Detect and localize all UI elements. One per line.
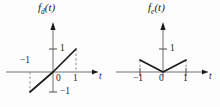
plot-odd-title-suffix: (t): [45, 1, 55, 13]
x-axis-label: t: [99, 72, 102, 82]
y-axis-arrowhead: [160, 22, 165, 30]
x-tick-label-zero: 0: [159, 74, 164, 84]
x-axis-arrowhead: [202, 69, 208, 74]
x-tick-label-pos1: 1: [73, 74, 78, 84]
x-tick-label-zero: 0: [56, 74, 61, 84]
y-tick-label-pos1: 1: [170, 44, 175, 54]
y-tick-label-pos1: 1: [60, 44, 65, 54]
plot-even-component: fe(t) −1 0 1 1 t: [110, 0, 220, 107]
plot-odd-title: fd(t): [38, 2, 55, 16]
plot-odd-canvas: [0, 0, 110, 107]
x-tick-label-pos1: 1: [183, 74, 188, 84]
signal-decomposition-figure: fd(t) −1 0 1 1 −1 t fe(t): [0, 0, 220, 107]
y-axis-arrowhead: [50, 22, 55, 30]
plot-even-title-suffix: (t): [154, 1, 164, 13]
x-axis-label: t: [209, 72, 212, 82]
plot-even-canvas: [110, 0, 220, 107]
x-axis-arrowhead: [92, 69, 98, 74]
plot-odd-component: fd(t) −1 0 1 1 −1 t: [0, 0, 110, 107]
y-tick-label-neg1: −1: [60, 87, 70, 97]
plot-even-title: fe(t): [148, 2, 165, 16]
x-tick-label-neg1: −1: [133, 74, 143, 84]
x-tick-label-neg1: −1: [20, 56, 30, 66]
